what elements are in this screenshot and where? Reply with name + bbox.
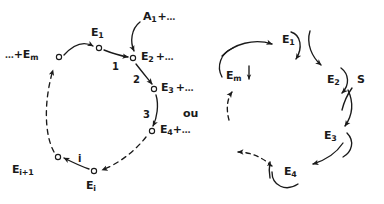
label-em-right: Em bbox=[226, 70, 241, 83]
node-marker-e2 bbox=[130, 55, 135, 60]
label-ei1-left: Ei+1 bbox=[12, 164, 34, 177]
step-label-1: 1 bbox=[112, 62, 119, 72]
label-substrate-s: S bbox=[357, 74, 365, 85]
arrow-e4-to-ei-dashed bbox=[102, 137, 146, 170]
label-e2-left: E2 +… bbox=[141, 51, 173, 64]
arrow-e1-to-e2 bbox=[104, 50, 128, 57]
arrow-ei-to-ei1 bbox=[64, 158, 89, 169]
label-e1-left: E1 bbox=[91, 27, 104, 40]
arrow-em-to-e1 bbox=[64, 44, 93, 55]
figure-canvas: A1 +… …+Em E1 E2 +… E3 +… E4+… Ei Ei+1 1… bbox=[0, 0, 384, 204]
node-marker-em bbox=[56, 54, 61, 59]
arrow-e3-to-e4 bbox=[153, 95, 157, 126]
step-label-2: 2 bbox=[133, 75, 140, 85]
arrow-ei1-to-em-dashed bbox=[46, 70, 54, 152]
arrow-dashed-out-e4-right bbox=[238, 152, 272, 166]
node-markers-left bbox=[55, 45, 156, 173]
arrow-e2-to-e3-right bbox=[345, 90, 352, 126]
arc-e2-hook-right bbox=[341, 68, 348, 93]
arrow-e3-to-e4-right bbox=[313, 143, 343, 164]
node-marker-e4 bbox=[149, 128, 154, 133]
label-e2-right: E2 bbox=[327, 74, 340, 87]
label-em-left: …+Em bbox=[5, 49, 38, 62]
arrow-e1-to-e2-right bbox=[309, 31, 321, 65]
label-ei-left: Ei bbox=[86, 180, 96, 193]
diagram-strokes bbox=[0, 0, 384, 204]
arc-e3-hook-right bbox=[343, 133, 352, 157]
step-label-3: 3 bbox=[143, 110, 150, 120]
arrow-into-e1-right bbox=[222, 42, 272, 56]
ou-separator-label: ou bbox=[183, 108, 198, 119]
label-e1-right: E1 bbox=[282, 34, 295, 47]
label-e4-right: E4 bbox=[284, 166, 297, 179]
label-e3-left: E3 +… bbox=[161, 82, 193, 95]
label-e4-left: E4+… bbox=[160, 124, 190, 137]
label-a1-input: A1 +… bbox=[143, 11, 175, 24]
arrow-dashed-into-em-right bbox=[227, 92, 232, 120]
node-marker-e3 bbox=[151, 86, 156, 91]
label-e3-right: E3 bbox=[324, 130, 337, 143]
node-marker-e1 bbox=[96, 45, 101, 50]
node-marker-ei bbox=[91, 168, 96, 173]
arrow-a1-input bbox=[132, 22, 140, 51]
step-label-i: i bbox=[78, 154, 81, 164]
node-marker-ei1 bbox=[55, 154, 60, 159]
